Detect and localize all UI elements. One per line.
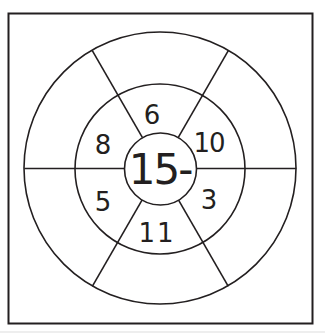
segment-value-upper-right: 10: [193, 128, 224, 158]
segment-value-lower-left: 5: [95, 187, 112, 217]
segment-value-bottom: 11: [138, 218, 175, 248]
segment-value-upper-left: 8: [95, 130, 112, 160]
segment-value-top: 6: [144, 100, 161, 130]
spoke-upper-right: [178, 51, 228, 138]
spoke-upper-left: [92, 51, 142, 138]
subtraction-wheel-diagram: 15- 6 10 3 11 5 8: [0, 0, 325, 334]
center-label: 15-: [129, 145, 192, 194]
segment-value-lower-right: 3: [201, 185, 218, 215]
